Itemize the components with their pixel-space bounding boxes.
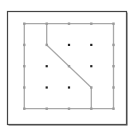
grid-dot [68, 108, 70, 110]
interior-dot [68, 44, 70, 46]
grid-dot [23, 86, 25, 88]
grid-dot [23, 23, 25, 25]
grid-dot [112, 23, 114, 25]
grid-dot [46, 108, 48, 110]
grid-dot [112, 108, 114, 110]
grid-dot [90, 108, 92, 110]
grid-dot [90, 23, 92, 25]
grid-dot [68, 65, 70, 67]
grid-dot [46, 23, 48, 25]
grid-dot [90, 86, 92, 88]
interior-dot [90, 65, 92, 67]
grid-dot [112, 86, 114, 88]
interior-dot [46, 65, 48, 67]
geoboard-figure [0, 0, 140, 131]
grid-dot [23, 44, 25, 46]
grid-dot [112, 65, 114, 67]
grid-dot [23, 65, 25, 67]
interior-dot [46, 86, 48, 88]
interior-dot [68, 86, 70, 88]
grid-dot [112, 44, 114, 46]
grid-dot [68, 23, 70, 25]
grid-dot [46, 44, 48, 46]
interior-dot [90, 44, 92, 46]
grid-dot [23, 108, 25, 110]
